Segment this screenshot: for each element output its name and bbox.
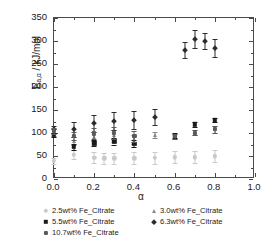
figure-scatter-activation-energy: Ea,α / kJ/mol α 050100150200250300350 0.… xyxy=(0,0,272,246)
legend-item[interactable]: 10.7wt% Fe_Citrate xyxy=(40,228,148,238)
marker-circle xyxy=(44,209,48,213)
x-tick-major xyxy=(255,173,256,177)
x-tick-label: 1.0 xyxy=(239,182,269,191)
legend-item[interactable]: 2.5wt% Fe_Citrate xyxy=(40,206,148,216)
error-bar-cap-lower xyxy=(52,134,57,135)
data-point xyxy=(52,129,56,133)
legend-label: 2.5wt% Fe_Citrate xyxy=(52,206,114,216)
series-4 xyxy=(54,18,253,177)
legend-item[interactable]: 5.5wt% Fe_Citrate xyxy=(40,217,148,227)
y-tick-label: 0 xyxy=(17,173,47,182)
legend-marker xyxy=(148,218,160,227)
error-bar-cap-upper xyxy=(72,132,77,133)
legend-label: 5.5wt% Fe_Citrate xyxy=(52,217,114,227)
data-point xyxy=(132,134,136,138)
x-tick-label: 0.0 xyxy=(38,182,68,191)
error-bar-cap-lower xyxy=(192,135,197,136)
y-tick-label: 350 xyxy=(17,12,47,21)
y-tick-label: 200 xyxy=(17,81,47,90)
error-bar-cap-upper xyxy=(92,128,97,129)
legend-item[interactable]: 6.3wt% Fe_Citrate xyxy=(148,217,256,227)
error-bar-cap-lower xyxy=(212,133,217,134)
y-tick-label: 250 xyxy=(17,58,47,67)
legend-label: 6.3wt% Fe_Citrate xyxy=(160,217,222,227)
x-tick-label: 0.6 xyxy=(159,182,189,191)
legend-row: 10.7wt% Fe_Citrate xyxy=(40,228,265,238)
plot-area xyxy=(53,17,254,178)
y-tick-label: 150 xyxy=(17,104,47,113)
marker-diamond xyxy=(151,219,156,224)
legend-marker xyxy=(40,218,52,227)
data-point xyxy=(193,130,197,134)
error-bar-cap-upper xyxy=(132,131,137,132)
error-bar-cap-lower xyxy=(132,142,137,143)
data-point xyxy=(112,131,116,135)
x-tick-major-top xyxy=(255,18,256,22)
x-axis-title: α xyxy=(138,191,144,202)
error-bar-cap-lower xyxy=(172,139,177,140)
legend-row: 2.5wt% Fe_Citrate3.0wt% Fe_Citrate xyxy=(40,206,265,216)
x-tick-label: 0.2 xyxy=(78,182,108,191)
error-bar-cap-upper xyxy=(112,127,117,128)
legend-marker xyxy=(40,207,52,216)
error-bar-cap-lower xyxy=(72,140,77,141)
x-tick-label: 0.4 xyxy=(118,182,148,191)
data-point xyxy=(173,134,177,138)
y-tick-major xyxy=(54,179,58,180)
legend-row: 5.5wt% Fe_Citrate6.3wt% Fe_Citrate xyxy=(40,217,265,227)
marker-triangle xyxy=(152,209,156,213)
y-tick-major-right xyxy=(249,179,253,180)
marker-square xyxy=(44,220,48,224)
y-tick-label: 100 xyxy=(17,127,47,136)
data-point xyxy=(213,127,217,131)
y-tick-label: 300 xyxy=(17,35,47,44)
error-bar-cap-lower xyxy=(112,139,117,140)
legend-item[interactable]: 3.0wt% Fe_Citrate xyxy=(148,206,256,216)
data-point xyxy=(72,134,76,138)
y-tick-label: 50 xyxy=(17,150,47,159)
data-point xyxy=(92,131,96,135)
marker-star xyxy=(44,231,48,235)
legend: 2.5wt% Fe_Citrate3.0wt% Fe_Citrate5.5wt%… xyxy=(40,206,265,239)
legend-label: 10.7wt% Fe_Citrate xyxy=(52,228,119,238)
legend-marker xyxy=(148,207,160,216)
legend-label: 3.0wt% Fe_Citrate xyxy=(160,206,222,216)
x-tick-label: 0.8 xyxy=(199,182,229,191)
error-bar-cap-lower xyxy=(92,139,97,140)
legend-marker xyxy=(40,229,52,238)
